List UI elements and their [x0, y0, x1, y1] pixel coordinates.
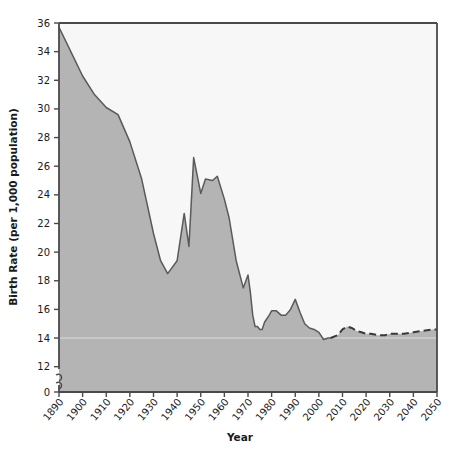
y-axis-ticks: 363432302826242220181614120 [37, 18, 59, 398]
y-tick-label-zero: 0 [44, 387, 50, 398]
x-tick-label: 1900 [64, 396, 89, 423]
y-tick-label: 12 [37, 361, 50, 372]
birth-rate-area-chart: 363432302826242220181614120 189019001910… [0, 0, 465, 454]
y-tick-label: 36 [37, 18, 50, 29]
x-tick-label: 1890 [41, 396, 66, 423]
y-tick-label: 24 [37, 189, 50, 200]
x-tick-label: 2030 [371, 396, 396, 423]
x-tick-label: 2050 [419, 396, 444, 423]
y-axis-title: Birth Rate (per 1,000 population) [7, 108, 19, 306]
x-tick-label: 2010 [324, 396, 349, 423]
chart-canvas: 363432302826242220181614120 189019001910… [0, 0, 465, 454]
y-tick-label: 18 [37, 275, 50, 286]
x-tick-label: 1960 [206, 396, 231, 423]
x-tick-label: 1990 [277, 396, 302, 423]
x-tick-label: 1940 [159, 396, 184, 423]
x-tick-label: 2000 [301, 396, 326, 423]
y-tick-label: 22 [37, 218, 50, 229]
x-axis-title: Year [226, 431, 254, 443]
y-tick-label: 16 [37, 304, 50, 315]
x-tick-label: 1950 [182, 396, 207, 423]
x-tick-label: 1980 [253, 396, 278, 423]
y-tick-label: 28 [37, 132, 50, 143]
x-tick-label: 1910 [88, 396, 113, 423]
x-tick-label: 1920 [112, 396, 137, 423]
y-tick-label: 32 [37, 75, 50, 86]
x-tick-label: 2040 [395, 396, 420, 423]
x-tick-label: 1970 [230, 396, 255, 423]
y-tick-label: 34 [37, 46, 50, 57]
y-tick-label: 30 [37, 103, 50, 114]
y-tick-label: 20 [37, 247, 50, 258]
y-tick-label: 14 [37, 333, 50, 344]
x-tick-label: 2020 [348, 396, 373, 423]
x-tick-label: 1930 [135, 396, 160, 423]
y-tick-label: 26 [37, 161, 50, 172]
x-axis-ticks: 1890190019101920193019401950196019701980… [41, 392, 444, 423]
